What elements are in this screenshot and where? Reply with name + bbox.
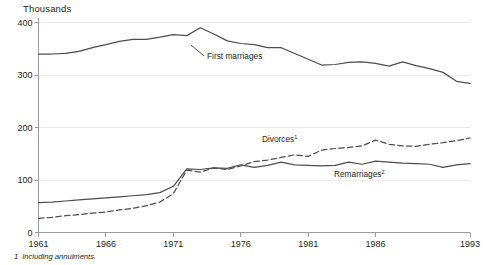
- x-tick-1961: 1961: [28, 239, 48, 249]
- x-tick-1976: 1976: [231, 239, 251, 249]
- footnote-text: Including annulments.: [22, 252, 96, 261]
- annotation-divorces: Divorces1: [262, 134, 297, 144]
- gridlines: [39, 23, 471, 181]
- x-tick-1993: 1993: [460, 239, 480, 249]
- series-line-divorces: [39, 138, 471, 218]
- annotation-first-marriages: First marriages: [207, 51, 262, 61]
- footnote: 1Including annulments.: [14, 252, 96, 261]
- y-axis-tick-labels: 0100200300400: [17, 18, 32, 238]
- line-chart: 0100200300400 19611966197119761981198619…: [0, 0, 483, 265]
- chart-container: Thousands 0100200300400 1961196619711976…: [0, 0, 483, 265]
- x-tick-1981: 1981: [298, 239, 318, 249]
- series-line-remarriages: [39, 161, 471, 202]
- y-tick-300: 300: [17, 70, 32, 80]
- x-tick-1966: 1966: [96, 239, 116, 249]
- x-axis-tick-labels: 1961196619711976198119861993: [28, 239, 480, 249]
- y-tick-0: 0: [27, 228, 32, 238]
- y-tick-200: 200: [17, 123, 32, 133]
- x-tick-1986: 1986: [366, 239, 386, 249]
- y-tick-100: 100: [17, 175, 32, 185]
- x-tick-1971: 1971: [163, 239, 183, 249]
- footnote-number: 1: [14, 252, 18, 261]
- series-annotations: First marriagesDivorces1Remarriages2: [207, 51, 385, 179]
- annotation-remarriages: Remarriages2: [334, 169, 385, 179]
- y-tick-400: 400: [17, 18, 32, 28]
- axis-lines: [39, 18, 471, 233]
- first-marriages-leader-line: [191, 45, 204, 56]
